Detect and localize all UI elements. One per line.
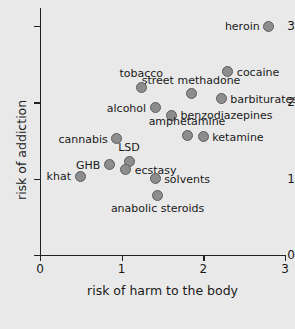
- y-tick-mark: [34, 26, 40, 27]
- data-point: [120, 164, 131, 175]
- x-tick-label: 3: [281, 262, 289, 276]
- y-tick-mark: [34, 179, 40, 180]
- data-point: [75, 171, 86, 182]
- data-point-label: barbiturates: [230, 93, 295, 104]
- data-point: [263, 21, 274, 32]
- data-point-label: solvents: [164, 173, 210, 184]
- data-point-label: ketamine: [212, 131, 263, 142]
- data-point: [150, 173, 161, 184]
- data-point: [186, 88, 197, 99]
- y-axis-title: risk of addiction: [14, 100, 29, 200]
- data-point-label: tobacco: [119, 68, 163, 79]
- y-tick-label: 1: [265, 172, 295, 186]
- x-axis-title: risk of harm to the body: [40, 283, 285, 298]
- x-tick-mark: [285, 255, 286, 261]
- data-point-label: LSD: [118, 142, 140, 153]
- data-point: [150, 102, 161, 113]
- data-point: [104, 159, 115, 170]
- data-point: [198, 131, 209, 142]
- data-point: [152, 190, 163, 201]
- data-point-label: khat: [47, 171, 71, 182]
- data-point: [182, 130, 193, 141]
- y-tick-label: 0: [265, 248, 295, 262]
- x-tick-label: 2: [200, 262, 208, 276]
- data-point: [136, 82, 147, 93]
- data-point-label: alcohol: [107, 102, 146, 113]
- y-axis-line: [40, 8, 41, 255]
- x-tick-mark: [122, 255, 123, 261]
- data-point-label: heroin: [225, 21, 260, 32]
- x-tick-mark: [40, 255, 41, 261]
- x-tick-label: 1: [118, 262, 126, 276]
- scatter-plot: 01230123 heroincocainebarbituratesstreet…: [0, 0, 295, 329]
- data-point-label: GHB: [76, 159, 100, 170]
- data-point-label: cannabis: [59, 133, 108, 144]
- y-tick-mark: [34, 102, 40, 103]
- data-point: [216, 93, 227, 104]
- data-point-label: cocaine: [237, 66, 279, 77]
- data-point-label: amphetamine: [149, 116, 226, 127]
- x-axis-line: [40, 255, 285, 256]
- x-tick-label: 0: [36, 262, 44, 276]
- x-tick-mark: [203, 255, 204, 261]
- data-point-label: anabolic steroids: [111, 203, 204, 214]
